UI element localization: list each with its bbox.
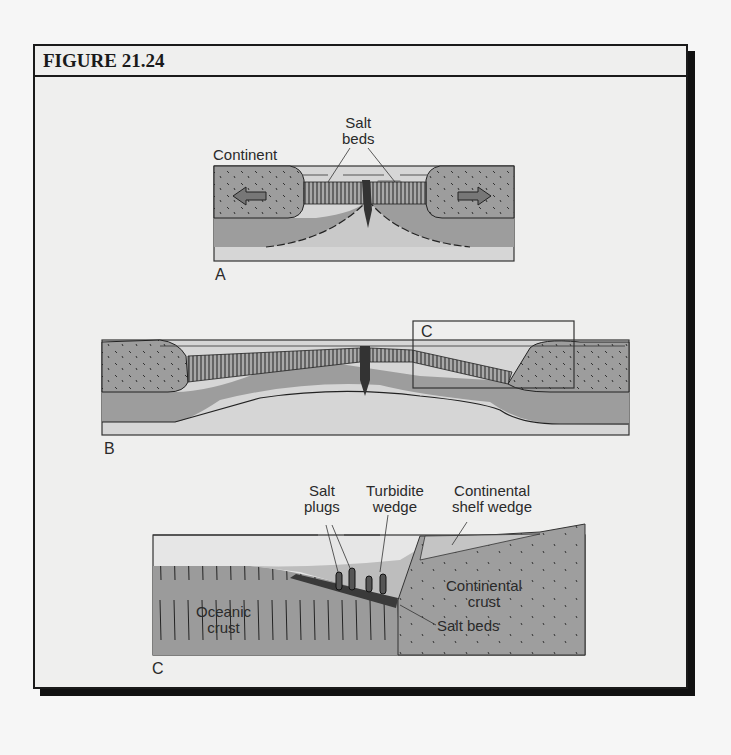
label-salt-plugs: Salt plugs (304, 483, 340, 515)
label-salt-beds-a: Salt beds (342, 115, 375, 147)
panel-letter-b: B (104, 440, 115, 458)
panel-b-diagram (102, 321, 629, 435)
label-salt-beds-a-line2: beds (342, 131, 375, 147)
label-oceanic-line2: crust (196, 620, 251, 636)
label-cont-crust-line1: Continental (446, 578, 522, 594)
inset-letter-c: C (421, 323, 433, 341)
panel-letter-a: A (215, 266, 226, 284)
panel-letter-c: C (152, 660, 164, 678)
label-oceanic-crust: Oceanic crust (196, 604, 251, 636)
label-salt-beds-a-line1: Salt (342, 115, 375, 131)
label-salt-plugs-line2: plugs (304, 499, 340, 515)
label-salt-beds-c: Salt beds (437, 618, 500, 634)
label-cont-crust-line2: crust (446, 594, 522, 610)
label-oceanic-line1: Oceanic (196, 604, 251, 620)
label-turbidite-wedge: Turbidite wedge (366, 483, 424, 515)
label-continental-crust: Continental crust (446, 578, 522, 610)
label-shelf-line2: shelf wedge (452, 499, 532, 515)
label-shelf-line1: Continental (452, 483, 532, 499)
label-salt-plugs-line1: Salt (304, 483, 340, 499)
label-turbidite-line1: Turbidite (366, 483, 424, 499)
label-continental-shelf-wedge: Continental shelf wedge (452, 483, 532, 515)
label-continent: Continent (213, 147, 277, 163)
panel-a-diagram (214, 148, 514, 261)
label-turbidite-line2: wedge (366, 499, 424, 515)
